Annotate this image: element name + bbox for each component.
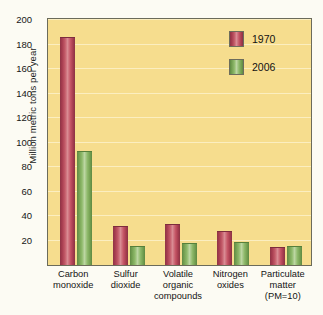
- y-tick-label: 20: [0, 234, 32, 245]
- x-axis-label: Particulatematter(PM=10): [249, 269, 317, 303]
- y-tick-label: 160: [0, 63, 32, 74]
- bar-2006: [130, 246, 145, 265]
- plot-area: 20406080100120140160180200 1970 2006: [47, 18, 312, 266]
- bar-group: [60, 19, 92, 265]
- y-tick-label: 40: [0, 210, 32, 221]
- bar-2006: [182, 243, 197, 265]
- legend-item: 2006: [229, 56, 303, 78]
- bar-1970: [270, 247, 285, 265]
- bar-1970: [165, 224, 180, 265]
- y-tick-label: 100: [0, 136, 32, 147]
- y-axis-title: Million metric tons per year: [27, 6, 38, 206]
- bar-2006: [287, 246, 302, 265]
- bar-group: [165, 19, 197, 265]
- bar-group: [113, 19, 145, 265]
- y-tick-label: 180: [0, 38, 32, 49]
- bar-1970: [60, 37, 75, 265]
- y-tick-label: 200: [0, 14, 32, 25]
- bar-1970: [217, 231, 232, 265]
- legend-item: 1970: [229, 28, 303, 50]
- legend-swatch-icon: [229, 59, 244, 75]
- bar-2006: [234, 242, 249, 265]
- bar-chart-figure: Million metric tons per year 20406080100…: [0, 0, 323, 315]
- legend-label: 1970: [252, 33, 275, 45]
- legend-swatch-icon: [229, 31, 244, 47]
- bar-2006: [77, 151, 92, 265]
- y-tick-label: 140: [0, 87, 32, 98]
- y-tick-label: 80: [0, 161, 32, 172]
- bar-1970: [113, 226, 128, 265]
- y-tick-label: 60: [0, 185, 32, 196]
- legend: 1970 2006: [229, 28, 303, 84]
- plot-inner: 20406080100120140160180200 1970 2006: [48, 19, 311, 265]
- x-axis-labels: CarbonmonoxideSulfurdioxideVolatileorgan…: [47, 269, 312, 313]
- legend-label: 2006: [252, 61, 275, 73]
- y-tick-label: 120: [0, 112, 32, 123]
